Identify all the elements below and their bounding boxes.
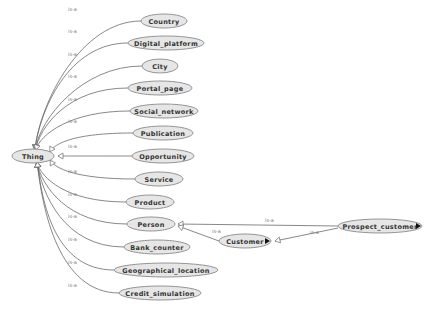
node-publication[interactable]: Publication (133, 126, 193, 140)
node-label: Thing (22, 153, 44, 161)
node-label: Social_network (134, 108, 194, 116)
node-label: Person (137, 221, 164, 229)
edge-service-is-a-thing (50, 160, 135, 179)
node-geographical-location[interactable]: Geographical_location (114, 263, 218, 277)
edge-credit_simulation-is-a-thing (37, 162, 119, 293)
node-label: Bank_counter (130, 244, 184, 252)
node-credit-simulation[interactable]: Credit_simulation (119, 286, 201, 300)
node-person[interactable]: Person (127, 217, 175, 231)
edge-prospect_customer-is-a-person (178, 224, 338, 226)
edge-person-is-a-thing (37, 162, 127, 224)
edge-country-is-a-thing (35, 21, 141, 150)
edge-label: is-a (310, 229, 319, 235)
node-country[interactable]: Country (141, 14, 187, 28)
node-label: Geographical_location (122, 267, 209, 275)
edge-label: is-a (68, 6, 77, 12)
edge-digital_platform-is-a-thing (35, 43, 128, 150)
node-label: Country (148, 18, 180, 26)
edge-label: is-a (68, 213, 77, 219)
edge-label: is-a (68, 143, 77, 149)
edge-label: is-a (68, 168, 77, 174)
node-label: Digital_platform (134, 40, 198, 48)
node-label: City (152, 63, 168, 71)
node-label: Credit_simulation (125, 290, 194, 298)
node-label: Service (144, 176, 173, 184)
edge-label: is-a (68, 28, 77, 34)
node-portal-page[interactable]: Portal_page (128, 81, 192, 95)
node-social-network[interactable]: Social_network (130, 104, 198, 118)
node-label: Publication (141, 130, 186, 138)
edge-label: is-a (68, 51, 77, 57)
edge-prospect_customer-is-a-customer (275, 228, 338, 241)
edge-label: is-a (68, 191, 77, 197)
edge-label: is-a (68, 118, 77, 124)
edge-publication-is-a-thing (50, 133, 133, 152)
node-label: Prospect_customer (343, 223, 418, 231)
edge-label: is-a (68, 259, 77, 265)
node-digital-platform[interactable]: Digital_platform (128, 36, 204, 50)
arrowhead-icon (178, 225, 184, 231)
edge-label: is-a (68, 236, 77, 242)
node-prospect-customer[interactable]: Prospect_customer (338, 219, 422, 233)
node-label: Product (135, 199, 166, 207)
edge-label: is-a (68, 73, 77, 79)
ontology-diagram: is-ais-ais-ais-ais-ais-ais-ais-ais-ais-a… (0, 0, 441, 317)
node-service[interactable]: Service (135, 172, 183, 186)
node-label: Portal_page (137, 85, 184, 93)
edge-city-is-a-thing (35, 66, 142, 150)
node-product[interactable]: Product (126, 195, 174, 209)
edge-label: is-a (212, 228, 221, 234)
node-city[interactable]: City (142, 59, 178, 73)
node-label: Opportunity (139, 153, 187, 161)
node-label: Customer (226, 238, 264, 246)
edge-product-is-a-thing (36, 162, 126, 202)
node-customer[interactable]: Customer (219, 234, 271, 248)
arrowhead-icon (275, 237, 281, 243)
edge-label: is-a (68, 282, 77, 288)
edge-label: is-a (68, 96, 77, 102)
node-opportunity[interactable]: Opportunity (132, 149, 194, 163)
arrowhead-icon (58, 153, 63, 159)
edge-label: is-a (265, 217, 274, 223)
node-bank-counter[interactable]: Bank_counter (124, 240, 190, 254)
node-thing[interactable]: Thing (12, 149, 54, 163)
edge-portal_page-is-a-thing (35, 88, 128, 150)
